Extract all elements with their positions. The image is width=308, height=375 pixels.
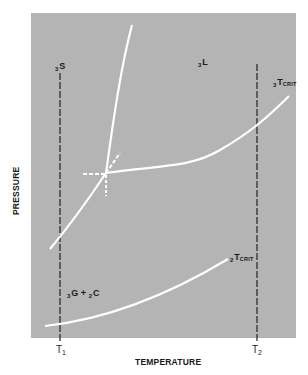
phase-curves [0, 0, 308, 375]
sublimation-curve [50, 173, 106, 249]
critical-point-label-upper: 3TCRIT [273, 78, 296, 88]
x-tick-t2: T2 [252, 345, 262, 356]
critical-point-label-lower: 2TCRIT [230, 253, 253, 263]
fusion-curve [106, 25, 132, 173]
x-axis-title: TEMPERATURE [135, 358, 201, 367]
x-tick-t1: T1 [56, 345, 66, 356]
vaporization-curve [106, 96, 289, 173]
region-label-gas-plus: 3G + 2C [67, 289, 99, 299]
y-axis-title: PRESSURE [12, 167, 21, 215]
region-label-solid: 3S [55, 62, 65, 72]
region-label-liquid: 3L [198, 58, 208, 68]
